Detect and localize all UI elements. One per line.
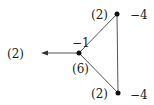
center-label-below: (6) (72, 62, 89, 76)
node-center (77, 51, 82, 56)
node-top (115, 12, 120, 17)
edge-top-bottom (117, 14, 118, 93)
node-bottom (116, 91, 121, 96)
arrowhead-icon (41, 51, 48, 56)
plumbing-graph: (2) −1 (6) (2) −4 (2) −4 (0, 0, 154, 105)
arrow-label: (2) (7, 47, 24, 61)
bottom-label-right: −4 (130, 88, 148, 102)
top-label-right: −4 (130, 8, 148, 22)
nodes (77, 12, 121, 96)
top-label-left: (2) (91, 8, 108, 22)
bottom-label-left: (2) (91, 87, 108, 101)
center-label-above: −1 (72, 36, 90, 50)
